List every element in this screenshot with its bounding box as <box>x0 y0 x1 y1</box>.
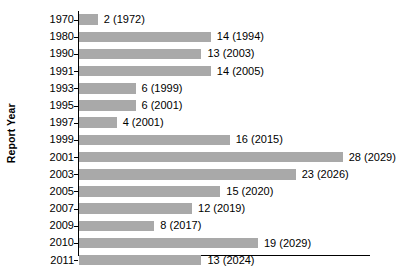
y-tick-label: 1970 <box>26 11 74 28</box>
y-tick-label: 1991 <box>26 63 74 80</box>
bar-value-label: 15 (2020) <box>226 186 273 197</box>
bar-track: 15 (2020) <box>79 183 273 200</box>
bar-track: 6 (2001) <box>79 97 183 114</box>
bar-row: 19974 (2001) <box>26 114 372 131</box>
y-tick-label: 1999 <box>26 131 74 148</box>
bar-track: 13 (2003) <box>79 45 255 62</box>
bar-row: 19956 (2001) <box>26 97 372 114</box>
y-tick-label: 1980 <box>26 28 74 45</box>
y-tick-mark <box>74 260 78 261</box>
y-axis-title: Report Year <box>0 0 22 266</box>
bar-row: 19936 (1999) <box>26 80 372 97</box>
bar <box>79 221 154 232</box>
y-tick-mark <box>74 140 78 141</box>
y-tick-mark <box>74 54 78 55</box>
bar-row: 19702 (1972) <box>26 11 372 28</box>
y-tick-label: 1990 <box>26 45 74 62</box>
y-tick-label: 1995 <box>26 97 74 114</box>
bar-row: 200712 (2019) <box>26 200 372 217</box>
bar-value-label: 13 (2003) <box>207 48 254 59</box>
y-tick-mark <box>74 123 78 124</box>
bar <box>79 49 201 60</box>
y-tick-mark <box>74 20 78 21</box>
bar-row: 201113 (2024) <box>26 252 372 266</box>
bar-value-label: 12 (2019) <box>198 203 245 214</box>
bar-value-label: 6 (1999) <box>142 83 183 94</box>
bar-row: 199114 (2005) <box>26 63 372 80</box>
bar <box>79 152 343 163</box>
bar <box>79 135 230 146</box>
bar <box>79 32 211 43</box>
bar-row: 20098 (2017) <box>26 217 372 234</box>
bar-row: 201019 (2029) <box>26 234 372 251</box>
bar-value-label: 4 (2001) <box>123 117 164 128</box>
bar-track: 2 (1972) <box>79 11 145 28</box>
bar-row: 198014 (1994) <box>26 28 372 45</box>
bar-row: 199916 (2015) <box>26 131 372 148</box>
y-tick-label: 1993 <box>26 80 74 97</box>
y-tick-mark <box>74 209 78 210</box>
y-tick-label: 2007 <box>26 200 74 217</box>
y-tick-mark <box>74 88 78 89</box>
y-tick-mark <box>74 157 78 158</box>
bar <box>79 186 220 197</box>
bar-row: 199013 (2003) <box>26 45 372 62</box>
bar-value-label: 6 (2001) <box>142 100 183 111</box>
bar <box>79 169 296 180</box>
y-tick-mark <box>74 71 78 72</box>
bar-track: 28 (2029) <box>79 149 396 166</box>
y-tick-label: 1997 <box>26 114 74 131</box>
bar-track: 14 (2005) <box>79 63 264 80</box>
bar-value-label: 16 (2015) <box>236 134 283 145</box>
bar-value-label: 28 (2029) <box>349 152 396 163</box>
bar-track: 4 (2001) <box>79 114 164 131</box>
y-tick-mark <box>74 243 78 244</box>
bar-track: 14 (1994) <box>79 28 264 45</box>
bar-track: 6 (1999) <box>79 80 183 97</box>
bar <box>79 203 192 214</box>
bar <box>79 100 136 111</box>
bar-value-label: 14 (1994) <box>217 31 264 42</box>
bar-value-label: 8 (2017) <box>160 220 201 231</box>
plot-area: 19702 (1972)198014 (1994)199013 (2003)19… <box>26 11 372 257</box>
bar-track: 16 (2015) <box>79 131 283 148</box>
y-axis-title-text: Report Year <box>6 103 17 163</box>
bar-row: 200128 (2029) <box>26 149 372 166</box>
bar-rows-container: 19702 (1972)198014 (1994)199013 (2003)19… <box>26 11 372 266</box>
bar-chart-figure: Report Year 19702 (1972)198014 (1994)199… <box>0 0 414 266</box>
y-tick-mark <box>74 191 78 192</box>
bar-value-label: 14 (2005) <box>217 66 264 77</box>
y-tick-label: 2011 <box>26 252 74 266</box>
y-tick-label: 2001 <box>26 149 74 166</box>
bar-track: 23 (2026) <box>79 166 349 183</box>
y-tick-label: 2005 <box>26 183 74 200</box>
bar-track: 12 (2019) <box>79 200 245 217</box>
bar-track: 19 (2029) <box>79 234 311 251</box>
bar-row: 200323 (2026) <box>26 166 372 183</box>
bar-value-label: 23 (2026) <box>302 169 349 180</box>
bar <box>79 255 201 266</box>
y-tick-mark <box>74 174 78 175</box>
y-tick-mark <box>74 226 78 227</box>
y-tick-mark <box>74 37 78 38</box>
bar-row: 200515 (2020) <box>26 183 372 200</box>
bar <box>79 117 117 128</box>
bar <box>79 238 258 249</box>
bar-track: 13 (2024) <box>79 252 255 266</box>
bar-value-label: 13 (2024) <box>207 255 254 266</box>
bar <box>79 14 98 25</box>
y-tick-label: 2003 <box>26 166 74 183</box>
y-tick-label: 2010 <box>26 234 74 251</box>
y-tick-mark <box>74 106 78 107</box>
bar <box>79 83 136 94</box>
y-tick-label: 2009 <box>26 217 74 234</box>
bar-track: 8 (2017) <box>79 217 201 234</box>
bar-value-label: 19 (2029) <box>264 238 311 249</box>
bar-value-label: 2 (1972) <box>104 14 145 25</box>
bar <box>79 66 211 77</box>
